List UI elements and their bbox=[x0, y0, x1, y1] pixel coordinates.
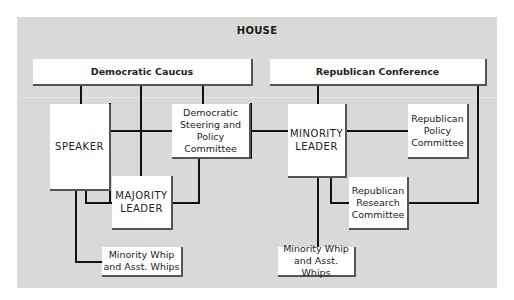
speaker-label: SPEAKER bbox=[55, 140, 104, 153]
republican-research-label: Republican Research Committee bbox=[352, 185, 405, 221]
minority-side-whip-box: Minority Whip and Asst. Whips bbox=[278, 247, 356, 277]
republican-policy-box: Republican Policy Committee bbox=[408, 104, 469, 159]
democratic-steering-box: Democratic Steering and Policy Committee bbox=[172, 104, 251, 159]
speaker-box: SPEAKER bbox=[50, 104, 111, 191]
minority-leader-box: MINORITY LEADER bbox=[288, 104, 347, 178]
majority-side-whip-box: Minority Whip and Asst. Whips bbox=[102, 247, 183, 277]
majority-leader-label: MAJORITY LEADER bbox=[115, 189, 167, 215]
majority-side-whip-label: Minority Whip and Asst. Whips bbox=[103, 249, 179, 273]
minority-side-whip-label: Minority Whip and Asst. Whips bbox=[278, 243, 354, 279]
republican-research-box: Republican Research Committee bbox=[349, 177, 409, 230]
diagram-title: HOUSE bbox=[17, 25, 497, 36]
democratic-steering-label: Democratic Steering and Policy Committee bbox=[180, 107, 241, 155]
republican-conference-box: Republican Conference bbox=[270, 59, 487, 86]
democratic-caucus-box: Democratic Caucus bbox=[33, 59, 253, 86]
democratic-caucus-label: Democratic Caucus bbox=[91, 66, 193, 78]
republican-policy-label: Republican Policy Committee bbox=[411, 113, 464, 149]
republican-conference-label: Republican Conference bbox=[316, 66, 440, 78]
majority-leader-box: MAJORITY LEADER bbox=[112, 176, 173, 230]
minority-leader-label: MINORITY LEADER bbox=[290, 127, 343, 153]
